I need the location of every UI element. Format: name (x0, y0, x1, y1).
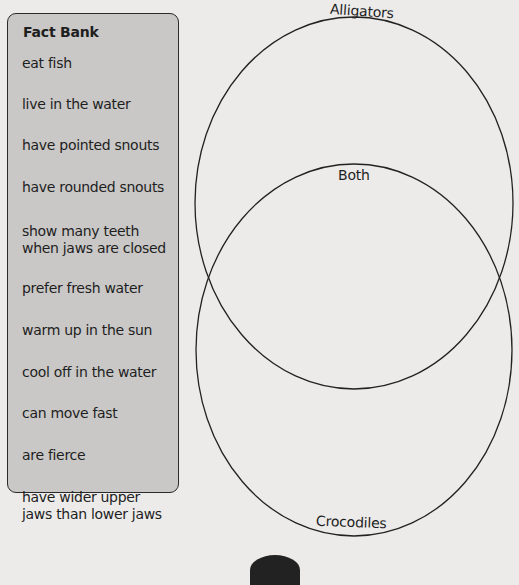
decorative-shape (250, 555, 300, 585)
both-label: Both (338, 167, 370, 183)
crocodiles-circle (196, 164, 512, 536)
crocodiles-label: Crocodiles (316, 513, 387, 531)
alligators-circle (195, 17, 513, 389)
